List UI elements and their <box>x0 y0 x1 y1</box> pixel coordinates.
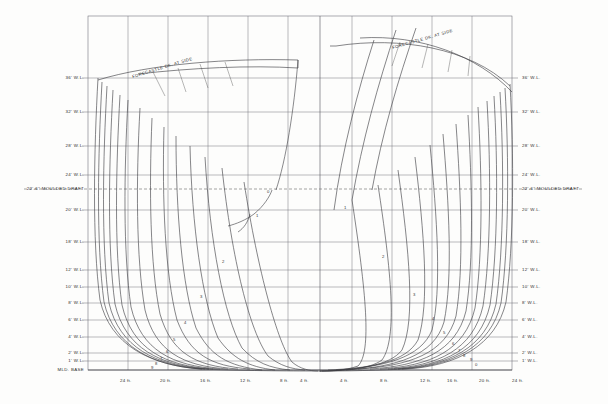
waterline-label-left: 36' W.L. <box>65 76 84 80</box>
station-label: 24 ft. <box>120 378 132 383</box>
station-label: 12 ft. <box>420 378 432 383</box>
waterline-label-right: 20' W.L. <box>522 208 541 212</box>
waterline-label-left: 20' W.L. <box>65 208 84 212</box>
curve-number: 8 <box>155 361 157 366</box>
hull-sections-left <box>95 78 321 371</box>
waterline-label-left: 1' W.L. <box>68 359 84 363</box>
waterline-label-left: 32' W.L. <box>65 110 84 114</box>
waterline-label-left: 24' W.L. <box>65 173 84 177</box>
waterline-label-right: 28' W.L. <box>522 144 541 148</box>
station-label: 12 ft. <box>240 378 252 383</box>
curve-number: 4 <box>184 320 186 325</box>
waterline-label-left: 28' W.L. <box>65 144 84 148</box>
curve-number: 3 <box>200 294 202 299</box>
station-label: 24 ft. <box>512 378 524 383</box>
curve-number: 0 <box>267 189 269 194</box>
curve-number: 4 <box>432 316 434 321</box>
curve-number: 6 <box>166 349 168 354</box>
leader-lines-right <box>392 42 470 76</box>
station-label: 20 ft. <box>160 378 172 383</box>
curve-number: 8 <box>463 353 465 358</box>
curve-number: 1 <box>256 213 258 218</box>
waterline-label-right: 36' W.L. <box>522 76 541 80</box>
curve-number: 2 <box>382 254 384 259</box>
station-label: 8 ft. <box>280 378 289 383</box>
waterline-label-left: 6' W.L. <box>68 318 84 322</box>
station-label: 16 ft. <box>447 378 459 383</box>
waterline-label-right: 4' W.L. <box>522 335 538 339</box>
waterline-label-left: MLD. BASE <box>57 368 84 372</box>
waterline-label-right: 10' W.L. <box>522 285 541 289</box>
waterline-label-right: 1' W.L. <box>522 359 538 363</box>
body-plan-svg <box>0 0 608 404</box>
waterline-label-right: 12' W.L. <box>522 268 541 272</box>
waterline-label-right: 22'-6" MOULDED DRAFT <box>522 187 579 191</box>
waterline-label-left: 10' W.L. <box>65 285 84 289</box>
curve-number: 0 <box>475 362 477 367</box>
waterline-label-right: 8' W.L. <box>522 301 538 305</box>
curve-number: 7 <box>458 348 460 353</box>
station-label: 8 ft. <box>380 378 389 383</box>
drawing-sheet: 36' W.L.32' W.L.28' W.L.24' W.L.22'-6" M… <box>0 0 608 404</box>
waterline-label-right: 2' W.L. <box>522 351 538 355</box>
waterline-label-right: 6' W.L. <box>522 318 538 322</box>
station-label: 16 ft. <box>200 378 212 383</box>
waterline-label-right: 18' W.L. <box>522 240 541 244</box>
curve-number: 2 <box>222 259 224 264</box>
station-label: 20 ft. <box>479 378 491 383</box>
waterline-label-left: 22'-6" MOULDED DRAFT <box>27 187 84 191</box>
curve-number: 5 <box>173 337 175 342</box>
curve-number: 3 <box>413 292 415 297</box>
curve-number: 9 <box>151 365 153 370</box>
waterline-label-left: 12' W.L. <box>65 268 84 272</box>
station-grid <box>128 16 472 370</box>
forecastle-deck-right <box>330 38 512 92</box>
curve-number: 1 <box>344 205 346 210</box>
waterline-label-left: 4' W.L. <box>68 335 84 339</box>
curve-number: 9 <box>470 357 472 362</box>
curve-number: 5 <box>443 330 445 335</box>
station-label: 4 ft. <box>340 378 349 383</box>
waterline-label-left: 8' W.L. <box>68 301 84 305</box>
waterline-label-left: 18' W.L. <box>65 240 84 244</box>
waterline-label-right: 32' W.L. <box>522 110 541 114</box>
curve-number: 6 <box>452 341 454 346</box>
waterline-label-right: 24' W.L. <box>522 173 541 177</box>
hull-sections-right <box>320 28 513 371</box>
waterline-label-left: 2' W.L. <box>68 351 84 355</box>
curve-number: 7 <box>160 356 162 361</box>
station-label: 4 ft. <box>300 378 309 383</box>
